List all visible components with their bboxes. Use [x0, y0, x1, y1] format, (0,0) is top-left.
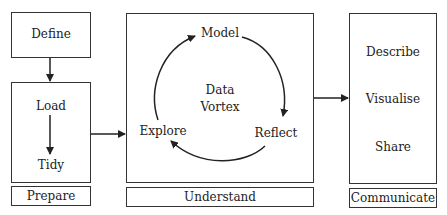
reflect-to-explore-arrow — [171, 141, 265, 161]
model-to-reflect-arrow — [242, 37, 285, 116]
arrows-layer — [0, 0, 447, 215]
explore-to-model-arrow — [155, 36, 195, 120]
